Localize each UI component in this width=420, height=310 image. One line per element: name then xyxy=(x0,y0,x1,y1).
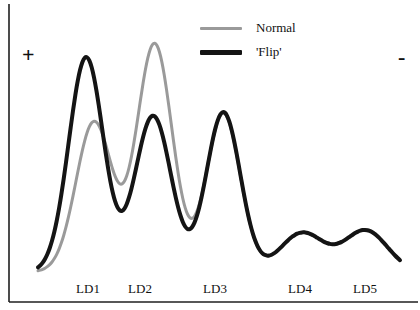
x-tick-label-ld3: LD3 xyxy=(203,281,227,297)
x-axis-tick-labels: LD1LD2LD3LD4LD5 xyxy=(0,281,420,301)
legend-item-normal: Normal xyxy=(200,16,350,40)
polarity-negative-label: - xyxy=(398,46,405,68)
chart-legend: Normal 'Flip' xyxy=(200,16,350,64)
chart-container: + - Normal 'Flip' LD1LD2LD3LD4LD5 xyxy=(0,0,420,310)
polarity-positive-label: + xyxy=(22,44,35,66)
legend-label-flip: 'Flip' xyxy=(256,44,282,60)
x-tick-label-ld2: LD2 xyxy=(128,281,152,297)
series-line-flip xyxy=(38,57,400,267)
x-tick-label-ld5: LD5 xyxy=(353,281,377,297)
legend-swatch-flip xyxy=(200,50,242,55)
legend-label-normal: Normal xyxy=(256,20,296,36)
legend-swatch-normal xyxy=(200,27,242,30)
x-tick-label-ld4: LD4 xyxy=(288,281,312,297)
x-tick-label-ld1: LD1 xyxy=(76,281,100,297)
legend-item-flip: 'Flip' xyxy=(200,40,350,64)
